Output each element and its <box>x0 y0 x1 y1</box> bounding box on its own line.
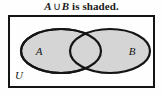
venn-canvas: A B U <box>0 0 163 95</box>
set-b-ellipse <box>70 29 150 73</box>
universe-label: U <box>15 69 24 81</box>
set-a-label: A <box>35 45 43 57</box>
venn-diagram-figure: A∪B is shaded. A B U <box>0 0 163 95</box>
set-b-label: B <box>129 45 136 57</box>
